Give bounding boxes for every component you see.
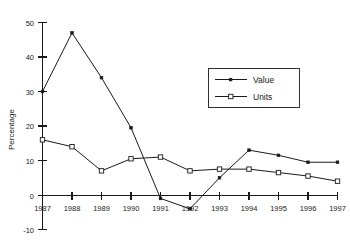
y-tick-label: 10: [26, 157, 34, 166]
x-tick-label: 1989: [93, 204, 110, 213]
chart-canvas: 50 40 30 20 10 0 -10 Percentage 19871988…: [0, 0, 350, 246]
y-tick-label: -10: [23, 226, 34, 235]
data-point-marker: [188, 169, 192, 173]
data-point-marker: [307, 161, 310, 164]
data-point-marker: [130, 126, 133, 129]
data-point-marker: [277, 154, 280, 157]
y-tick-label: 20: [26, 122, 34, 131]
data-point-marker: [41, 90, 44, 93]
data-point-marker: [40, 138, 44, 142]
y-tick-label: 40: [26, 53, 34, 62]
data-point-marker: [218, 176, 221, 179]
data-point-marker: [189, 208, 192, 211]
data-point-marker: [158, 155, 162, 159]
x-tick-label: 1994: [241, 204, 258, 213]
x-tick-label: 1988: [64, 204, 81, 213]
data-point-marker: [217, 167, 221, 171]
legend-marker-units: [229, 94, 233, 98]
x-tick-label: 1997: [329, 204, 346, 213]
legend-label-units: Units: [253, 92, 272, 102]
chart-legend: Value Units: [209, 69, 300, 108]
data-point-marker: [306, 174, 310, 178]
line-chart: 50 40 30 20 10 0 -10 Percentage 19871988…: [0, 0, 350, 246]
legend-label-value: Value: [253, 75, 274, 85]
chart-background: [0, 0, 350, 246]
y-tick-label: 30: [26, 88, 34, 97]
data-point-marker: [276, 170, 280, 174]
x-tick-label: 1995: [270, 204, 287, 213]
data-point-marker: [99, 169, 103, 173]
x-tick-label: 1987: [34, 204, 51, 213]
data-point-marker: [71, 32, 74, 35]
data-point-marker: [248, 149, 251, 152]
data-point-marker: [335, 179, 339, 183]
data-point-marker: [336, 161, 339, 164]
y-axis-label: Percentage: [7, 109, 16, 150]
data-point-marker: [159, 197, 162, 200]
legend-marker-value: [229, 78, 232, 81]
data-point-marker: [247, 167, 251, 171]
x-tick-label: 1996: [300, 204, 317, 213]
x-tick-label: 1990: [123, 204, 140, 213]
data-point-marker: [129, 157, 133, 161]
y-tick-label: 0: [30, 192, 34, 201]
x-tick-label: 1991: [152, 204, 169, 213]
y-tick-label: 50: [26, 19, 34, 28]
x-tick-label: 1993: [211, 204, 228, 213]
data-point-marker: [100, 76, 103, 79]
data-point-marker: [70, 145, 74, 149]
